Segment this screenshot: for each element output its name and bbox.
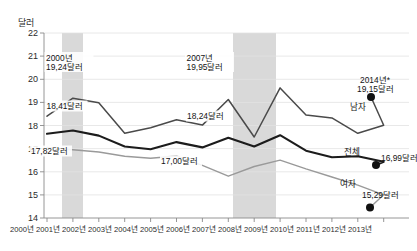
y-tick-label-19: 19 [28, 97, 38, 107]
y-tick-label-21: 21 [28, 51, 38, 61]
y-tick-label-14: 14 [28, 213, 38, 223]
x-tick-label-2008: 2008년 [218, 224, 242, 234]
y-tick-label-22: 22 [28, 28, 38, 38]
x-tick-label-2003: 2003년 [88, 224, 112, 234]
annotation-2007-value: 19,95달러 [187, 62, 224, 72]
annotation-2014-female-value: 15,29달러 [362, 190, 399, 200]
annotation-2008-female-value: 17,00달러 [161, 156, 198, 166]
annotation-2000-male: 2000년 19,24달러 [45, 52, 94, 72]
endpoint-dot-female [366, 204, 374, 212]
x-tick-label-2005: 2005년 [140, 224, 164, 234]
annotation-2007-total-value: 18,24달러 [187, 111, 224, 121]
annotation-start-total-value: 18,41달러 [47, 101, 84, 111]
annotation-2000-value: 19,24달러 [46, 62, 83, 72]
line-chart: 달러 22 21 20 19 [0, 0, 417, 251]
annotation-2014-male-value: 19,15달러 [357, 84, 394, 94]
y-tick-label-20: 20 [28, 74, 38, 84]
endpoint-dot-male [367, 93, 375, 101]
endpoint-dot-total [372, 161, 380, 169]
annotation-start-female: 17,82달러 [30, 146, 72, 157]
annotation-2014-male: 2014년* 19,15달러 [357, 75, 394, 94]
x-tick-label-2011: 2011년 [296, 224, 319, 234]
annotation-2014-total-value: 16,99달러 [381, 153, 417, 163]
y-tick-label-15: 15 [28, 190, 38, 200]
x-tick-label-2001: 2001년 [36, 224, 60, 234]
x-tick-label-2007: 2007년 [192, 224, 216, 234]
x-tick-label-2002: 2002년 [62, 224, 86, 234]
series-label-total: 전체 [344, 147, 360, 157]
chart-container: 달러 22 21 20 19 [0, 0, 417, 251]
x-tick-label-2004: 2004년 [114, 224, 138, 234]
x-tick-label-2012: 2012년 [322, 224, 346, 234]
x-tick-label-2010: 2010년 [270, 224, 294, 234]
annotation-2007-male: 2007년 19,95달러 [185, 52, 234, 72]
x-tick-label-2000: 2000년 [10, 224, 34, 234]
annotation-2007-total: 18,24달러 [186, 111, 228, 122]
annotation-start-total: 18,41달러 [46, 101, 88, 112]
annotation-2008-female: 17,00달러 [160, 156, 202, 167]
x-tick-label-2013: 2013년 [348, 224, 372, 234]
series-label-female: 여자 [340, 178, 356, 189]
annotation-start-female-value: 17,82달러 [31, 146, 68, 156]
x-tick-label-2006: 2006년 [166, 224, 190, 234]
series-label-male: 남자 [350, 102, 366, 112]
y-axis-unit-label: 달러 [18, 17, 34, 28]
y-tick-label-18: 18 [28, 121, 38, 131]
x-tick-label-2009: 2009년 [244, 224, 268, 234]
y-tick-label-16: 16 [28, 167, 38, 177]
